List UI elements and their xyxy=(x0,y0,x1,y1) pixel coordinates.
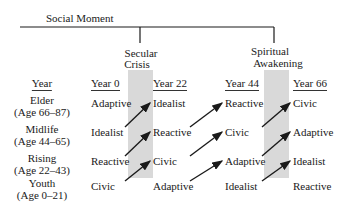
archetype-cell: Adaptive xyxy=(293,126,333,138)
archetype-cell: Adaptive xyxy=(225,155,265,167)
archetype-cell: Idealist xyxy=(153,97,185,109)
archetype-cell: Civic xyxy=(225,126,249,138)
row-header: Year xyxy=(32,77,52,91)
archetype-cell: Civic xyxy=(293,97,317,109)
archetype-cell: Civic xyxy=(153,155,177,167)
archetype-cell: Reactive xyxy=(91,155,129,167)
archetype-cell: Idealist xyxy=(225,180,257,192)
archetype-cell: Reactive xyxy=(153,126,191,138)
spiritual-awakening-label-2: Awakening xyxy=(253,57,303,69)
archetype-cell: Idealist xyxy=(293,155,325,167)
row-label-midlife: Midlife xyxy=(26,123,59,135)
row-label-elder: Elder xyxy=(30,94,54,106)
transition-arrow xyxy=(190,161,222,181)
secular-crisis-label-2: Crisis xyxy=(124,58,150,70)
row-label-rising: Rising xyxy=(28,152,57,164)
transition-arrow xyxy=(262,132,290,156)
transition-arrow xyxy=(262,161,290,181)
social-moment-title: Social Moment xyxy=(46,12,114,24)
transition-arrow xyxy=(190,132,222,156)
row-age-range: (Age 0–21) xyxy=(17,189,67,201)
column-header-0: Year 0 xyxy=(91,77,120,91)
archetype-cell: Civic xyxy=(91,180,115,192)
row-age-range: (Age 22–43) xyxy=(14,164,70,176)
column-header-2: Year 44 xyxy=(225,77,259,91)
archetype-cell: Adaptive xyxy=(91,97,131,109)
archetype-cell: Reactive xyxy=(293,180,331,192)
row-label-youth: Youth xyxy=(29,177,55,189)
transition-arrow xyxy=(125,132,150,156)
column-header-3: Year 66 xyxy=(293,77,327,91)
row-age-range: (Age 44–65) xyxy=(14,135,70,147)
column-header-1: Year 22 xyxy=(153,77,187,91)
generational-cycle-diagram: Social Moment Secular Crisis Spiritual A… xyxy=(0,0,342,212)
transition-arrow xyxy=(262,103,290,127)
transition-arrow xyxy=(190,103,222,127)
archetype-cell: Adaptive xyxy=(153,180,193,192)
row-age-range: (Age 66–87) xyxy=(14,106,70,118)
archetype-cell: Reactive xyxy=(225,97,263,109)
archetype-cell: Idealist xyxy=(91,126,123,138)
spiritual-awakening-label-1: Spiritual xyxy=(251,45,289,57)
